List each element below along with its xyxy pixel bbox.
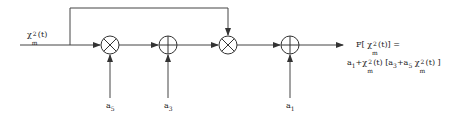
multiplier-block-2: [219, 36, 237, 54]
output-expression-line1: F[ χ2m(t)] =: [356, 40, 400, 49]
feedforward-path: [70, 8, 228, 45]
output-expression-line2: a1+χ2m(t) [a3+a5 χ2m(t) ]: [347, 58, 441, 69]
coefficient-a5-label: a5: [106, 101, 115, 112]
input-signal-label: χ2m(t): [27, 30, 47, 39]
adder-block-1: [159, 36, 177, 54]
coefficient-paths: [110, 55, 290, 98]
adder-block-2: [281, 36, 299, 54]
coefficient-a1-label: a1: [286, 101, 295, 112]
multiplier-block-1: [101, 36, 119, 54]
coefficient-a3-label: a3: [164, 101, 173, 112]
